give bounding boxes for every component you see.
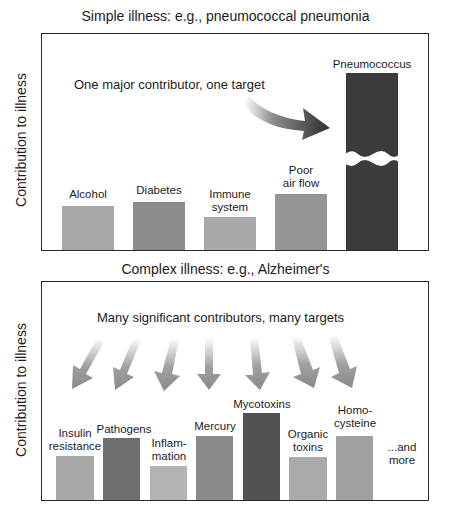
curved-arrow-icon: [244, 96, 330, 140]
arrows-overlay: [0, 0, 451, 518]
down-arrow-icon-3: [154, 338, 180, 391]
down-arrow-icon-5: [245, 337, 270, 390]
down-arrow-icon-7: [329, 335, 357, 388]
down-arrow-icon-4: [197, 338, 221, 390]
down-arrow-icon-6: [292, 336, 320, 388]
down-arrow-icon-2: [113, 338, 141, 390]
axis-break-icon: [344, 151, 400, 166]
down-arrow-icon-1: [72, 338, 105, 389]
